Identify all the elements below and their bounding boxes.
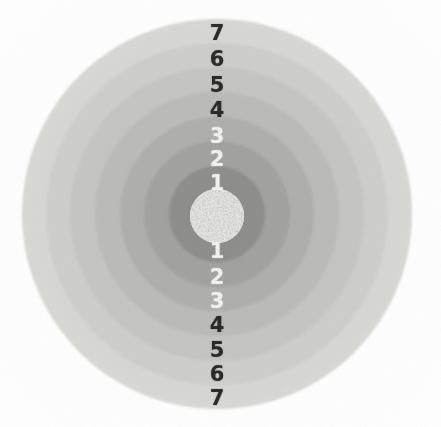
core-texture: [190, 189, 244, 243]
bullseye-core-icon: [190, 189, 244, 243]
target-figure: 7 6 5 4 3 2 1 1 2 3 4 5 6 7: [0, 0, 441, 427]
